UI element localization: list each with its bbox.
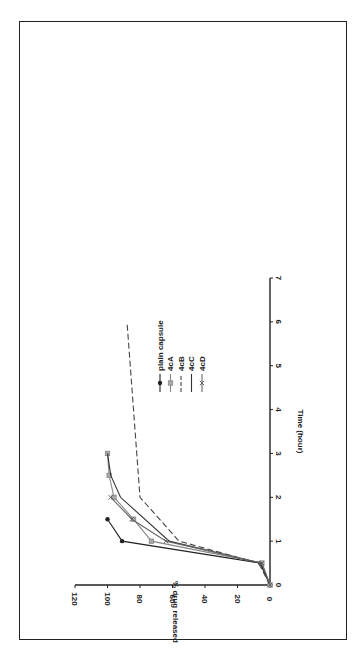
y-axis-title: % drug released [171, 581, 180, 643]
x-tick-label: 7 [274, 276, 283, 281]
legend-label: 4cB [177, 356, 186, 371]
y-tick-label: 20 [233, 595, 242, 604]
x-tick-label: 6 [274, 320, 283, 325]
axes: 01234567020406080100120 [70, 276, 283, 606]
x-axis-title: Time (hour) [296, 410, 305, 454]
series-4ca [105, 451, 272, 587]
legend-item: 4cD [198, 356, 207, 392]
legend-label: 4cC [187, 356, 196, 371]
legend-item: plain capsule [156, 320, 165, 392]
y-tick-label: 100 [103, 592, 112, 606]
data-point-circle [158, 381, 162, 385]
legend-item: 4cA [166, 356, 175, 392]
x-tick-label: 4 [274, 407, 283, 412]
x-tick-label: 0 [274, 583, 283, 588]
y-tick-label: 120 [70, 592, 79, 606]
series-line [108, 519, 271, 585]
legend-item: 4cB [177, 356, 186, 392]
legend-label: plain capsule [156, 320, 165, 371]
x-tick-label: 1 [274, 539, 283, 544]
x-tick-label: 5 [274, 363, 283, 368]
legend: plain capsule4cA4cB4cC4cD [156, 320, 207, 392]
series-plain-capsule [105, 517, 272, 587]
data-point-square [149, 539, 153, 543]
data-point-circle [120, 539, 124, 543]
x-tick-label: 3 [274, 451, 283, 456]
legend-label: 4cA [166, 356, 175, 371]
data-point-square [168, 381, 172, 385]
y-tick-label: 80 [135, 595, 144, 604]
chart: 01234567020406080100120 plain capsule4cA… [0, 0, 360, 660]
y-tick-label: 40 [200, 595, 209, 604]
data-point-circle [105, 517, 109, 521]
legend-label: 4cD [198, 356, 207, 371]
legend-item: 4cC [187, 356, 196, 392]
y-tick-label: 0 [265, 597, 274, 602]
x-tick-label: 2 [274, 495, 283, 500]
